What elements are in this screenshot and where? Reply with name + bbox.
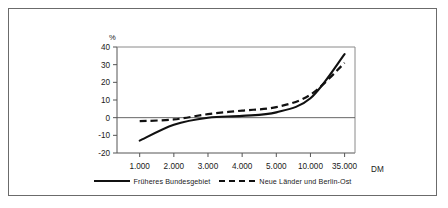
x-axis-ticks (140, 153, 345, 157)
legend-item-neue-laender-berlin-ost: Neue Länder und Berlin-Ost (219, 178, 351, 185)
x-tick-label: 5.000 (266, 162, 287, 171)
plot-area (117, 47, 355, 153)
x-tick-label: 2.000 (164, 162, 185, 171)
line-chart: % 403020100-10-20 1.0002.0003.0004.0005.… (9, 9, 436, 195)
x-tick-label: 35.000 (332, 162, 357, 171)
legend-item-frueheres-bundesgebiet: Früheres Bundesgebiet (94, 178, 211, 185)
y-axis-ticks (113, 47, 117, 153)
y-tick-label: 30 (101, 61, 111, 70)
legend-label-neue-laender-berlin-ost: Neue Länder und Berlin-Ost (259, 178, 351, 185)
x-tick-label: 3.000 (198, 162, 219, 171)
x-axis-title: DM (371, 165, 384, 174)
legend-swatch-dashed-icon (219, 180, 255, 182)
chart-frame: % 403020100-10-20 1.0002.0003.0004.0005.… (8, 8, 437, 196)
y-tick-label: -20 (98, 149, 110, 158)
figure-container: % 403020100-10-20 1.0002.0003.0004.0005.… (0, 0, 448, 208)
y-axis-unit-label: % (109, 33, 116, 42)
y-tick-label: -10 (98, 131, 110, 140)
y-tick-label: 40 (101, 43, 111, 52)
y-tick-label: 10 (101, 96, 111, 105)
y-tick-label: 20 (101, 78, 111, 87)
legend-label-frueheres-bundesgebiet: Früheres Bundesgebiet (134, 178, 211, 185)
x-axis-tick-labels: 1.0002.0003.0004.0005.00010.00035.000 (129, 162, 357, 171)
chart-legend: Früheres Bundesgebiet Neue Länder und Be… (9, 178, 436, 185)
x-tick-label: 10.000 (298, 162, 323, 171)
y-tick-label: 0 (105, 114, 110, 123)
x-tick-label: 4.000 (232, 162, 253, 171)
legend-swatch-solid-icon (94, 180, 130, 182)
x-tick-label: 1.000 (129, 162, 150, 171)
y-axis-tick-labels: 403020100-10-20 (98, 43, 110, 158)
